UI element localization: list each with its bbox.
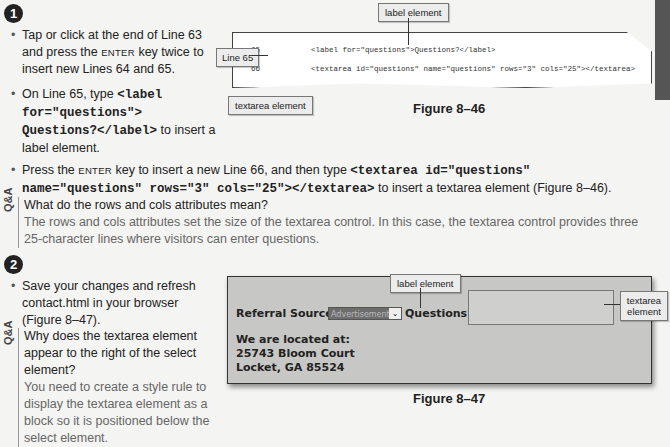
step1-bullet-1: Tap or click at the end of Line 63 and p… [22, 27, 217, 78]
chevron-down-icon: ⌄ [389, 308, 401, 319]
referral-source-select[interactable]: Advertisement ⌄ [328, 307, 402, 320]
address-line: Locket, GA 85524 [236, 361, 355, 375]
step2-bullet-1: Save your changes and refresh contact.ht… [22, 278, 212, 329]
select-value: Advertisement [331, 310, 390, 319]
figure-46-caption: Figure 8–46 [413, 101, 485, 116]
qa-question-2: Why does the textarea element appear to … [24, 328, 218, 379]
arrow-line-65 [252, 55, 268, 56]
qa-block-1: What do the rows and cols attributes mea… [18, 197, 658, 248]
code-line-65: <label for="questions">Questions?</label… [311, 46, 496, 54]
callout-line-65: Line 65 [216, 48, 259, 67]
referral-source-label: Referral Source: [236, 307, 337, 320]
figure-47-caption: Figure 8–47 [413, 391, 485, 406]
qa-answer-2: You need to create a style rule to displ… [24, 379, 218, 447]
address-block: We are located at: 25743 Bloom Court Loc… [236, 333, 355, 375]
code-editor-snippet: 65 <label for="questions">Questions?</la… [232, 32, 652, 88]
step1-bullet-3: Press the ENTER key to insert a new Line… [22, 162, 652, 198]
arrow-label-47 [420, 288, 421, 308]
callout-label-element-47: label element [390, 274, 461, 293]
chapter-side-tab [655, 0, 670, 100]
code-line-66: <textarea id="questions" name="questions… [311, 65, 635, 73]
qa-block-2: Why does the textarea element appear to … [18, 328, 218, 447]
step1-bullet-2: On Line 65, type <label for="questions">… [22, 86, 217, 157]
arrow-textarea-47 [604, 304, 620, 305]
callout-textarea-element-46: textarea element [228, 96, 313, 115]
qa-tag-1: Q&A [2, 188, 14, 212]
address-line: 25743 Bloom Court [236, 347, 355, 361]
arrow-label-46 [408, 18, 409, 45]
questions-label: Questions? [405, 307, 474, 320]
step-number-2: 2 [4, 255, 23, 274]
qa-question-1: What do the rows and cols attributes mea… [24, 197, 658, 214]
callout-label-element-46: label element [378, 3, 449, 22]
qa-tag-2: Q&A [2, 321, 14, 345]
step-number-1: 1 [4, 4, 23, 23]
questions-textarea[interactable] [468, 290, 614, 325]
callout-textarea-element-47: textarea element [620, 291, 668, 321]
address-line: We are located at: [236, 333, 355, 347]
qa-answer-1: The rows and cols attributes set the siz… [24, 214, 658, 248]
